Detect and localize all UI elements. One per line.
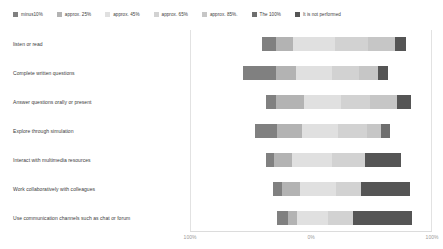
legend-item[interactable]: approx. 65% (154, 12, 188, 18)
legend-item[interactable]: approx. 85%. (202, 12, 238, 18)
legend-swatch-icon (252, 12, 257, 17)
bar-segment[interactable] (273, 182, 282, 196)
legend-item-label: approx. 85%. (210, 12, 238, 18)
plot-area (190, 30, 432, 232)
legend-item-label: It is not performed (303, 12, 341, 18)
bar-segment[interactable] (335, 37, 368, 51)
legend-item-label: The 100% (260, 12, 281, 18)
bar-segment[interactable] (338, 124, 367, 138)
bar-segment[interactable] (266, 95, 276, 109)
diverging-stacked-bar-chart: minus10%approx. 25%approx. 45%approx. 65… (0, 0, 443, 249)
category-label: Work collaboratively with colleagues (13, 185, 188, 192)
bar-row[interactable] (273, 182, 410, 196)
legend-item[interactable]: approx. 25% (57, 12, 91, 18)
axis-tick-label: 100% (184, 233, 197, 241)
bar-segment[interactable] (332, 66, 359, 80)
bar-segment[interactable] (381, 124, 390, 138)
legend-item-label: approx. 65% (162, 12, 188, 18)
bar-row[interactable] (243, 66, 388, 80)
bar-segment[interactable] (367, 124, 381, 138)
legend-item-label: minus10% (21, 12, 43, 18)
chart-legend: minus10%approx. 25%approx. 45%approx. 65… (0, 7, 443, 22)
bar-series-container (190, 30, 432, 232)
legend-item[interactable]: It is not performed (295, 12, 341, 18)
bar-segment[interactable] (328, 211, 353, 225)
legend-item-label: approx. 45% (113, 12, 139, 18)
category-label: Answer questions orally or present (13, 99, 188, 106)
bar-row[interactable] (262, 37, 406, 51)
category-axis-labels: listen or readComplete written questions… (0, 30, 188, 232)
legend-swatch-icon (295, 12, 300, 17)
bar-row[interactable] (255, 124, 390, 138)
bar-segment[interactable] (282, 182, 300, 196)
legend-swatch-icon (105, 12, 110, 17)
bar-row[interactable] (266, 153, 401, 167)
axis-tick-label: 0% (307, 233, 314, 241)
legend-item-label: approx. 25% (65, 12, 91, 18)
bar-segment[interactable] (288, 211, 297, 225)
bar-segment[interactable] (293, 37, 335, 51)
legend-swatch-icon (57, 12, 62, 17)
bar-segment[interactable] (395, 37, 406, 51)
bar-segment[interactable] (297, 211, 328, 225)
bar-segment[interactable] (276, 95, 304, 109)
bar-segment[interactable] (277, 211, 288, 225)
bar-segment[interactable] (302, 124, 338, 138)
bar-segment[interactable] (304, 95, 341, 109)
legend-item[interactable]: approx. 45% (105, 12, 139, 18)
bar-segment[interactable] (277, 124, 302, 138)
bar-segment[interactable] (361, 182, 410, 196)
bar-segment[interactable] (266, 153, 274, 167)
legend-swatch-icon (154, 12, 159, 17)
bar-segment[interactable] (276, 37, 293, 51)
category-label: Complete written questions (13, 70, 188, 77)
category-label: Use communication channels such as chat … (13, 214, 188, 221)
bar-segment[interactable] (243, 66, 276, 80)
bar-segment[interactable] (336, 182, 361, 196)
bar-segment[interactable] (276, 66, 296, 80)
bar-segment[interactable] (300, 182, 336, 196)
bar-segment[interactable] (262, 37, 276, 51)
category-label: Explore through simulation (13, 128, 188, 135)
bar-segment[interactable] (378, 66, 388, 80)
bar-row[interactable] (277, 211, 412, 225)
legend-swatch-icon (202, 12, 207, 17)
bar-segment[interactable] (370, 95, 397, 109)
bar-segment[interactable] (255, 124, 277, 138)
legend-swatch-icon (13, 12, 18, 17)
bar-segment[interactable] (359, 66, 378, 80)
value-axis-ticks: 100%0%100% (0, 233, 443, 245)
axis-tick-label: 100% (426, 233, 439, 241)
bar-segment[interactable] (292, 153, 332, 167)
bar-segment[interactable] (368, 37, 395, 51)
bar-row[interactable] (266, 95, 411, 109)
bar-segment[interactable] (397, 95, 411, 109)
legend-item[interactable]: The 100% (252, 12, 281, 18)
category-label: Interact with multimedia resources (13, 156, 188, 163)
bar-segment[interactable] (274, 153, 292, 167)
bar-segment[interactable] (353, 211, 412, 225)
category-label: listen or read (13, 41, 188, 48)
bar-segment[interactable] (332, 153, 365, 167)
bar-segment[interactable] (341, 95, 370, 109)
value-axis-line (190, 231, 432, 232)
legend-item[interactable]: minus10% (13, 12, 43, 18)
bar-segment[interactable] (365, 153, 401, 167)
bar-segment[interactable] (296, 66, 332, 80)
